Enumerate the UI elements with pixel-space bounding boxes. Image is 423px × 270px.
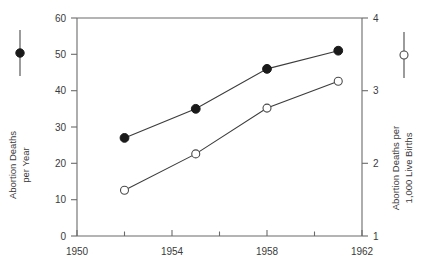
- series-deaths-per-year: [120, 46, 343, 142]
- data-point-open-circle: [121, 186, 129, 194]
- legend-left-label-line2: per Year: [20, 147, 31, 182]
- y-axis-right-label-2: 2: [373, 158, 379, 169]
- x-axis-label-1958: 1958: [256, 246, 279, 257]
- y-axis-right-label-3: 3: [373, 85, 379, 96]
- y-axis-left-label-30: 30: [55, 122, 67, 133]
- legend-left: Abortion Deaths per Year: [7, 30, 31, 199]
- y-axis-right: 4 3 2 1: [362, 13, 379, 242]
- chart-canvas: Abortion Deaths per Year Abortion Deaths…: [0, 0, 423, 270]
- data-point-filled-circle: [120, 134, 129, 143]
- series-deaths-per-1000-births: [121, 77, 343, 194]
- legend-right: Abortion Deaths per 1,000 Live Births: [390, 32, 414, 210]
- x-axis: 1950 1954 1958 1962: [66, 230, 374, 257]
- data-point-filled-circle: [263, 64, 272, 73]
- y-axis-left-label-10: 10: [55, 194, 67, 205]
- chart-figure: Abortion Deaths per Year Abortion Deaths…: [0, 0, 423, 270]
- y-axis-left: 60 50 40 30 20 10 0: [55, 13, 77, 242]
- data-point-open-circle: [192, 150, 200, 158]
- y-axis-left-label-60: 60: [55, 13, 67, 24]
- legend-left-label-line1: Abortion Deaths: [7, 131, 18, 199]
- x-axis-label-1954: 1954: [161, 246, 184, 257]
- y-axis-left-label-50: 50: [55, 49, 67, 60]
- y-axis-left-label-20: 20: [55, 158, 67, 169]
- y-axis-right-label-4: 4: [373, 13, 379, 24]
- x-axis-label-1962: 1962: [351, 246, 374, 257]
- x-axis-label-1950: 1950: [66, 246, 89, 257]
- series-line-1: [125, 81, 339, 190]
- data-point-filled-circle: [191, 104, 200, 113]
- y-axis-left-label-40: 40: [55, 85, 67, 96]
- y-axis-left-label-0: 0: [60, 231, 66, 242]
- legend-right-open-circle-icon: [400, 51, 408, 59]
- series-line-0: [125, 51, 339, 138]
- legend-right-label-line1: Abortion Deaths per: [390, 126, 401, 211]
- series-layer: [120, 46, 343, 194]
- legend-right-label-line2: 1,000 Live Births: [403, 132, 414, 203]
- data-point-filled-circle: [334, 46, 343, 55]
- legend-left-filled-circle-icon: [16, 49, 24, 57]
- data-point-open-circle: [334, 77, 342, 85]
- y-axis-right-label-1: 1: [373, 231, 379, 242]
- data-point-open-circle: [263, 104, 271, 112]
